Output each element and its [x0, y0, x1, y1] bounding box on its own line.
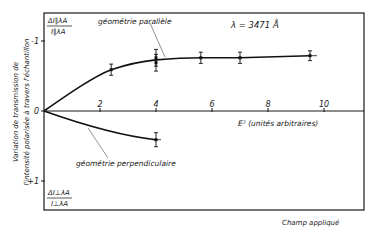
perpendicular-leader	[88, 128, 108, 158]
parallel-label: géométrie parallèle	[98, 17, 172, 26]
svg-text:10: 10	[319, 100, 329, 109]
svg-text:6: 6	[209, 100, 214, 109]
svg-text:2: 2	[97, 100, 102, 109]
svg-text:ΔI⊥λA: ΔI⊥λA	[47, 189, 70, 197]
bottom-fraction: ΔI⊥λA I⊥λA	[47, 189, 72, 208]
x-axis-label: E² (unités arbitraires)	[238, 119, 318, 128]
y-axis-label: Variation de transmission de l'intensité…	[12, 39, 31, 186]
svg-text:4: 4	[153, 100, 158, 109]
wavelength-annotation: λ = 3471 Å	[230, 19, 279, 30]
svg-text:ΔI∥λA: ΔI∥λA	[47, 17, 67, 25]
chart: 246810 -10+1 géométrie parallèle géométr…	[0, 0, 376, 237]
svg-text:l'intensité polarisée à traver: l'intensité polarisée à travers l'échant…	[23, 39, 31, 186]
svg-text:0: 0	[34, 107, 39, 116]
svg-text:-1: -1	[31, 37, 39, 46]
x-ticks: 246810	[97, 100, 329, 112]
footer-label: Champ appliqué	[282, 219, 340, 227]
parallel-leader	[150, 23, 165, 57]
perpendicular-curve	[44, 111, 156, 140]
perpendicular-label: géométrie perpendiculaire	[76, 159, 176, 168]
svg-text:Variation de transmission de: Variation de transmission de	[12, 62, 20, 162]
error-bars	[109, 49, 317, 146]
svg-text:8: 8	[265, 100, 270, 109]
svg-text:I∥λA: I∥λA	[51, 28, 66, 36]
top-fraction: ΔI∥λA I∥λA	[47, 17, 72, 36]
svg-text:I⊥λA: I⊥λA	[51, 200, 68, 208]
